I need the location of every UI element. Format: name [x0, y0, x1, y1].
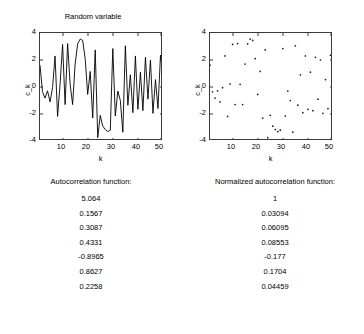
scatter-point: [259, 71, 261, 73]
scatter-point: [262, 117, 264, 119]
xtick-right-10: 10: [224, 143, 238, 151]
value-norm-0: 1: [186, 192, 364, 207]
scatter-point: [325, 79, 327, 81]
chart-ylabel-right: c_k: [194, 70, 202, 110]
xtick-left-40: 40: [129, 143, 143, 151]
scatter-point: [249, 38, 251, 40]
xtick-left-20: 20: [79, 143, 93, 151]
scatter-point: [219, 101, 221, 103]
scatter-point: [237, 43, 239, 45]
scatter-point: [284, 115, 286, 117]
ytick-left-0: 0: [18, 82, 36, 90]
scatter-point: [307, 108, 309, 110]
ytick-left-2: 2: [18, 55, 36, 63]
scatter-point: [214, 97, 216, 99]
results-header-normalized: Normalized autocorrelation function:: [186, 176, 364, 192]
scatter-point: [330, 54, 332, 56]
scatter-point: [232, 44, 234, 46]
scatter-point: [295, 45, 297, 47]
chart-title-random-variable: Random variable: [18, 12, 168, 21]
scatter-point: [320, 59, 322, 61]
value-norm-2: 0.06095: [186, 221, 364, 236]
results-column-normalized: Normalized autocorrelation function:: [182, 176, 364, 192]
ytick-right-0: 0: [188, 82, 206, 90]
value-raw-5: 0.8627: [0, 265, 182, 280]
scatter-point: [317, 98, 319, 100]
ytick-right-m2: -2: [188, 109, 206, 117]
scatter-point: [315, 56, 317, 58]
value-raw-3: 0.4331: [0, 236, 182, 251]
scatter-point: [302, 112, 304, 114]
scatter-point: [310, 71, 312, 73]
scatter-point: [257, 94, 259, 96]
scatter-point: [277, 131, 279, 133]
scatter-point: [224, 55, 226, 57]
scatter-point: [289, 100, 291, 102]
value-norm-3: 0.08553: [186, 236, 364, 251]
ytick-right-2: 2: [188, 55, 206, 63]
x-tick-marks-top: [63, 33, 161, 36]
matlab-figure: Random variable c_k 4 2 0 -2 -4: [0, 0, 364, 334]
scatter-point: [212, 91, 214, 93]
value-raw-0: 5.064: [0, 192, 182, 207]
xtick-left-50: 50: [152, 143, 166, 151]
value-raw-2: 0.3087: [0, 221, 182, 236]
scatter-point: [252, 40, 254, 42]
xtick-right-40: 40: [299, 143, 313, 151]
y-tick-marks-left: [210, 60, 213, 114]
scatter-point: [300, 74, 302, 76]
scatter-point: [305, 55, 307, 57]
x-tick-marks-bottom: [233, 138, 331, 140]
chart-panel-random-variable: Random variable c_k 4 2 0 -2 -4: [18, 12, 168, 172]
plot-area-line: [39, 32, 162, 140]
results-values-normalized: 1 0.03094 0.06095 0.08553 -0.177 0.1704 …: [182, 192, 364, 294]
scatter-point: [269, 115, 271, 117]
ytick-left-4: 4: [18, 28, 36, 36]
xtick-left-30: 30: [104, 143, 118, 151]
scatter-point: [327, 108, 329, 110]
scatter-point: [254, 58, 256, 60]
scatter-point: [272, 125, 274, 127]
results-column-raw: Autocorrelation function:: [0, 176, 182, 192]
xtick-left-10: 10: [54, 143, 68, 151]
results-value-row: 5.064 0.1567 0.3087 0.4331 -0.8965 0.862…: [0, 192, 364, 294]
value-norm-4: -0.177: [186, 250, 364, 265]
xtick-right-20: 20: [249, 143, 263, 151]
line-plot-svg: [40, 33, 162, 140]
scatter-point: [264, 49, 266, 51]
chart-ylabel-left: c_k: [24, 70, 32, 110]
scatter-point: [292, 131, 294, 133]
scatter-point: [234, 104, 236, 106]
scatter-point: [217, 90, 219, 92]
chart-xlabel-right: k: [209, 155, 332, 163]
ytick-right-4: 4: [188, 28, 206, 36]
scatter-point: [282, 48, 284, 50]
ytick-left-m2: -2: [18, 109, 36, 117]
scatter-point: [222, 87, 224, 89]
xtick-right-50: 50: [322, 143, 336, 151]
x-tick-marks-top: [233, 33, 331, 36]
scatter-point: [244, 63, 246, 65]
value-raw-6: 0.2258: [0, 280, 182, 295]
chart-panel-scatter: c_k 4 2 0 -2 -4: [187, 12, 339, 172]
scatter-point: [239, 83, 241, 85]
chart-xlabel-left: k: [39, 155, 162, 163]
scatter-plot-svg: [210, 33, 332, 140]
xtick-right-30: 30: [274, 143, 288, 151]
scatter-point: [297, 104, 299, 106]
scatter-point: [287, 90, 289, 92]
scatter-point: [312, 110, 314, 112]
autocorrelation-results: Autocorrelation function: Normalized aut…: [0, 176, 364, 294]
value-norm-1: 0.03094: [186, 207, 364, 222]
scatter-point: [274, 129, 276, 131]
ytick-left-m4: -4: [18, 136, 36, 144]
scatter-point: [210, 64, 211, 66]
x-tick-marks-bottom: [63, 138, 161, 140]
scatter-point: [322, 112, 324, 114]
scatter-point: [229, 83, 231, 85]
value-norm-6: 0.04459: [186, 280, 364, 295]
y-tick-marks-right: [330, 60, 332, 114]
scatter-point: [242, 104, 244, 106]
scatter-series-ck: [210, 38, 332, 138]
value-raw-4: -0.8965: [0, 250, 182, 265]
